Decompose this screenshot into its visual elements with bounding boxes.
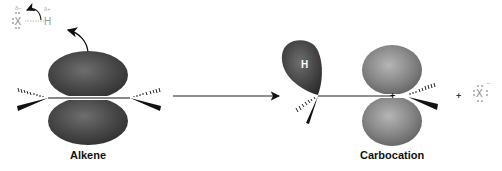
diagram-canvas: X δ− H δ+ [0, 0, 502, 171]
alkene-structure [17, 51, 161, 145]
halide-anion: + X − [456, 80, 490, 102]
hx-delta-plus: δ+ [44, 6, 51, 12]
hx-delta-minus: δ− [15, 5, 22, 11]
carbocation-label: Carbocation [360, 149, 424, 161]
alkene-left-wedge-bond [17, 98, 48, 111]
byproduct-x-atom: X [476, 88, 483, 99]
carbocation-structure: H + [282, 40, 438, 146]
carbocation-charge: + [390, 91, 395, 101]
carbocation-p-lobe-bottom [362, 96, 422, 146]
curved-arrow-pi-to-h [68, 30, 88, 52]
carbocation-p-lobe-top [362, 45, 422, 95]
alkene-left-hashed-bond [18, 88, 43, 97]
curved-arrow-bond-to-x [27, 9, 41, 20]
alkene-right-hashed-bond [134, 88, 160, 97]
reaction-diagram: X δ− H δ+ [0, 0, 502, 171]
alkene-pi-lobe-bottom [48, 97, 128, 145]
hx-x-atom: X [15, 16, 22, 27]
alkene-label: Alkene [70, 149, 106, 161]
hydrogen-lobe-label: H [301, 59, 308, 70]
alkene-right-wedge-bond [130, 98, 161, 111]
byproduct-charge: − [486, 80, 490, 87]
alkene-pi-lobe-top [48, 51, 128, 99]
hx-h-atom: H [44, 16, 51, 27]
byproduct-plus: + [456, 91, 461, 101]
